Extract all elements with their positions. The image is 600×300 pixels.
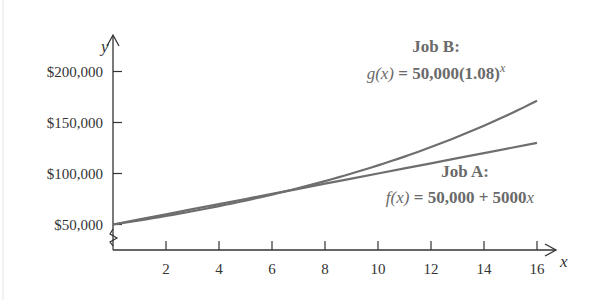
x-tick-label: 12 (424, 261, 439, 277)
x-tick-label: 14 (477, 261, 493, 277)
x-tick-label: 16 (530, 261, 546, 277)
y-tick-label: $50,000 (54, 217, 103, 233)
y-tick-label: $150,000 (47, 115, 103, 131)
annotation-job-b-equation: g(x) = 50,000(1.08)x (367, 61, 506, 83)
x-axis-label: x (559, 252, 568, 271)
y-axis: y $50,000$100,000$150,000$200,000 (47, 35, 122, 250)
annotation-job-b-title: Job B: (412, 37, 460, 56)
y-axis-label: y (99, 37, 109, 56)
y-tick-label: $200,000 (47, 64, 103, 80)
x-tick-label: 8 (321, 261, 329, 277)
x-axis: x 246810121416 (113, 241, 568, 277)
x-tick-label: 2 (162, 261, 170, 277)
y-tick-label: $100,000 (47, 166, 103, 182)
chart: y $50,000$100,000$150,000$200,000 x 2468… (0, 0, 600, 300)
x-tick-label: 6 (268, 261, 276, 277)
x-tick-label: 4 (215, 261, 223, 277)
annotation-job-a-title: Job A: (441, 162, 489, 181)
annotation-job-b: Job B: g(x) = 50,000(1.08)x (367, 37, 506, 83)
annotation-job-a-equation: f(x) = 50,000 + 5000x (386, 188, 535, 207)
x-tick-label: 10 (371, 261, 386, 277)
series-job-a-line (113, 143, 537, 225)
